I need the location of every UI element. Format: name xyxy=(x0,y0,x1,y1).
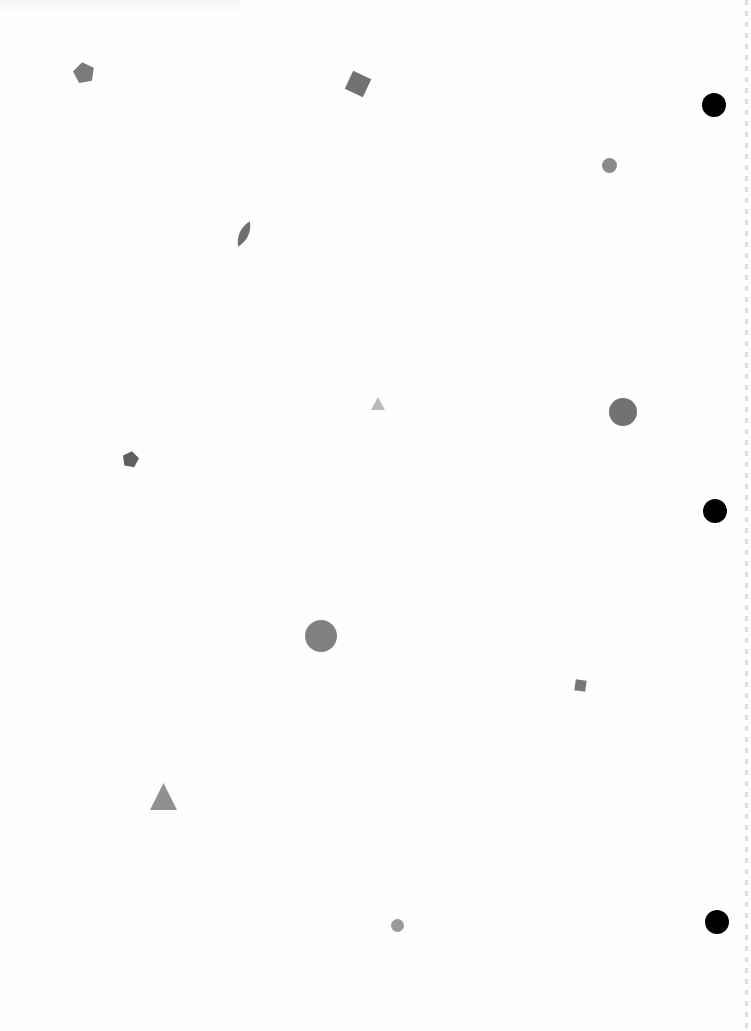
triangle-small-center-icon xyxy=(371,397,385,410)
square-top-center-icon xyxy=(345,71,372,98)
pentagon-top-left-icon xyxy=(72,60,96,83)
scanned-page xyxy=(0,0,751,1031)
pentagon-left-icon xyxy=(121,450,140,468)
shapes-canvas xyxy=(0,0,751,1031)
circle-textured-center-icon xyxy=(305,620,337,652)
triangle-bottom-left-icon xyxy=(150,783,177,810)
punch-hole-bottom xyxy=(705,910,729,934)
circle-small-bottom-icon xyxy=(391,919,404,932)
circle-small-top-right-icon xyxy=(602,158,617,173)
punch-hole-top xyxy=(702,93,726,117)
circle-right-icon xyxy=(609,398,637,426)
square-small-right-icon xyxy=(574,679,586,691)
punch-hole-middle xyxy=(703,499,727,523)
leaf-left-icon xyxy=(234,219,254,248)
